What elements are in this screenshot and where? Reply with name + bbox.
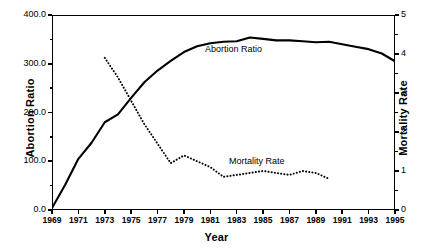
x-axis-tick-label: 1995	[379, 215, 411, 225]
x-axis-tickmark	[315, 210, 317, 214]
x-axis-tickmark	[341, 210, 343, 214]
y-axis-left-tick-label: 400.0	[0, 9, 46, 19]
y-axis-right-tick-label: 4	[401, 48, 406, 58]
y-axis-right-tickmark	[395, 131, 399, 133]
x-axis-tickmark	[236, 210, 238, 214]
series-path-abortion-ratio	[52, 37, 395, 208]
y-axis-right-tick-label: 5	[401, 9, 406, 19]
y-axis-right-minor-tickmark	[395, 34, 398, 35]
x-axis-tickmark	[104, 210, 106, 214]
y-axis-left-tick-label: 100.0	[0, 155, 46, 165]
series-path-mortality-rate	[105, 58, 329, 179]
x-axis-tickmark	[157, 210, 159, 214]
y-axis-right-minor-tickmark	[395, 190, 398, 191]
x-axis-tickmark	[368, 210, 370, 214]
x-axis-tickmark	[210, 210, 212, 214]
y-axis-right-minor-tickmark	[395, 151, 398, 152]
y-axis-right-tick-label: 0	[401, 204, 406, 214]
x-axis-title: Year	[0, 231, 433, 243]
y-axis-left-tick-label: 200.0	[0, 107, 46, 117]
series-label-abortion-ratio: Abortion Ratio	[205, 44, 262, 54]
x-axis-tickmark	[289, 210, 291, 214]
x-axis-tickmark	[78, 210, 80, 214]
x-axis-tickmark	[183, 210, 185, 214]
x-axis-tickmark	[394, 210, 396, 214]
x-axis-tickmark	[51, 210, 53, 214]
series-label-mortality-rate: Mortality Rate	[229, 156, 285, 166]
y-axis-right-minor-tickmark	[395, 112, 398, 113]
y-axis-right-tickmark	[395, 92, 399, 94]
x-axis-tickmark	[262, 210, 264, 214]
y-axis-right-tickmark	[395, 14, 399, 16]
y-axis-right-tick-label: 1	[401, 165, 406, 175]
y-axis-right-tick-label: 3	[401, 87, 406, 97]
y-axis-right-title: Mortality Rate	[397, 58, 409, 178]
chart-container: Abortion Ratio Mortality Rate Year 400.0…	[0, 0, 433, 251]
y-axis-right-tickmark	[395, 170, 399, 172]
y-axis-left-tick-label: 0.0	[0, 204, 46, 214]
y-axis-right-tick-label: 2	[401, 126, 406, 136]
y-axis-right-minor-tickmark	[395, 73, 398, 74]
x-axis-tickmark	[130, 210, 132, 214]
y-axis-left-tick-label: 300.0	[0, 58, 46, 68]
y-axis-right-tickmark	[395, 53, 399, 55]
